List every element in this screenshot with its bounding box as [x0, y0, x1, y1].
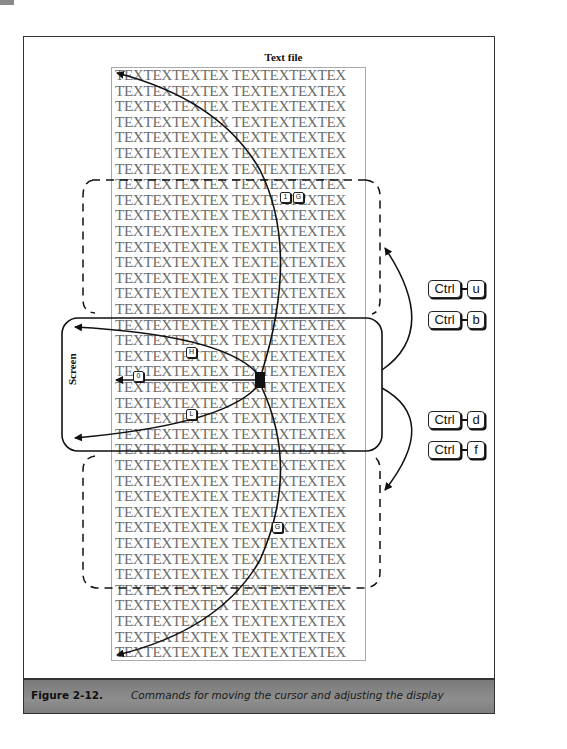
- key-H: H: [186, 347, 197, 358]
- key-G: G: [272, 522, 283, 533]
- arrow-to-top: [117, 73, 281, 372]
- key-d: d: [467, 411, 485, 429]
- combo-ctrl-d: Ctrl d: [428, 411, 485, 429]
- key-ctrl: Ctrl: [428, 280, 461, 298]
- arrow-L: [75, 388, 256, 438]
- diagram-overlay: [0, 0, 567, 749]
- caption-number: Figure 2-12.: [31, 689, 103, 701]
- arrow-to-bottom: [117, 388, 281, 655]
- arrow-H: [75, 327, 256, 372]
- key-ctrl: Ctrl: [428, 441, 461, 459]
- combo-ctrl-u: Ctrl u: [428, 280, 485, 298]
- key-ctrl: Ctrl: [428, 411, 461, 429]
- key-f: f: [467, 441, 485, 459]
- previous-page-region: [83, 180, 380, 314]
- cursor: [255, 372, 265, 388]
- key-b: b: [467, 311, 485, 329]
- figure-caption: Figure 2-12. Commands for moving the cur…: [23, 679, 495, 714]
- key-1: 1: [280, 192, 291, 203]
- key-u: u: [467, 280, 485, 298]
- key-L: L: [186, 409, 197, 420]
- arrow-scroll-down: [382, 388, 412, 490]
- next-page-region: [83, 456, 380, 588]
- screen-box: [62, 318, 382, 451]
- key-G-top: G: [293, 192, 304, 203]
- caption-text: Commands for moving the cursor and adjus…: [131, 689, 444, 701]
- arrow-scroll-up: [382, 248, 412, 370]
- key-zero: 0: [133, 371, 144, 382]
- combo-ctrl-b: Ctrl b: [428, 311, 485, 329]
- combo-ctrl-f: Ctrl f: [428, 441, 485, 459]
- key-ctrl: Ctrl: [428, 311, 461, 329]
